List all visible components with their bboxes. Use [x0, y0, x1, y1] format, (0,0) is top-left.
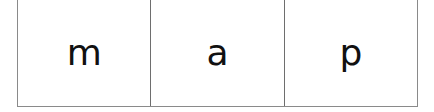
letter-cell-2: a: [151, 0, 284, 106]
letter-grid: m a p: [17, 0, 418, 107]
letter-cell-1: m: [18, 0, 151, 106]
letter-m: m: [67, 35, 102, 71]
letter-a: a: [206, 35, 228, 71]
letter-p: p: [339, 35, 362, 71]
letter-cell-3: p: [285, 0, 417, 106]
